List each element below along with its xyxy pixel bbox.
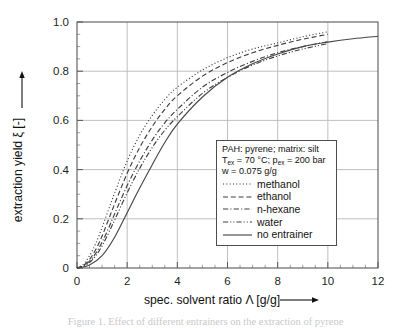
chart-canvas: 024681012 00.20.40.60.81.0 spec. solvent… <box>0 0 411 328</box>
x-tick-label: 2 <box>124 275 130 287</box>
legend-pressure-value: = 200 bar <box>284 155 325 165</box>
x-axis-arrow-head <box>312 297 319 302</box>
x-tick-label: 0 <box>74 275 80 287</box>
legend-line-sample <box>222 179 253 189</box>
legend-temp-symbol: T <box>222 155 228 165</box>
x-tick-label: 12 <box>372 275 385 287</box>
legend-item-methanol[interactable]: methanol <box>222 178 332 191</box>
legend-item-no-entrainer[interactable]: no entrainer <box>222 228 332 241</box>
y-tick-labels: 00.20.40.60.81.0 <box>53 16 70 274</box>
x-tick-label: 4 <box>174 275 181 287</box>
legend-label: ethanol <box>253 191 291 202</box>
legend-entries: methanolethanoln-hexanewaterno entrainer <box>222 178 332 241</box>
y-tick-label: 0.6 <box>53 114 69 126</box>
x-axis-title-group: spec. solvent ratio Λ [g/g] <box>144 293 319 307</box>
legend-header-line-2: Tex = 70 °C; pex = 200 bar <box>222 155 332 166</box>
y-tick-label: 1.0 <box>53 16 69 28</box>
y-axis-title: extraction yield ξ [-] <box>11 118 25 222</box>
legend-box: PAH: pyrene; matrix: silt Tex = 70 °C; p… <box>216 140 337 246</box>
legend-line-sample <box>222 192 253 202</box>
y-tick-label: 0.4 <box>53 164 70 176</box>
legend-item-water[interactable]: water <box>222 216 332 229</box>
y-axis-arrow-head <box>19 71 24 78</box>
legend-header-line-3: w = 0.075 g/g <box>222 166 332 177</box>
x-tick-label: 10 <box>321 275 334 287</box>
legend-item-ethanol[interactable]: ethanol <box>222 191 332 204</box>
legend-label: no entrainer <box>253 229 312 240</box>
y-tick-label: 0 <box>63 262 69 274</box>
legend-label: water <box>253 217 282 228</box>
x-axis-title: spec. solvent ratio Λ [g/g] <box>144 293 280 307</box>
legend-label: n-hexane <box>253 204 300 215</box>
figure-container: 024681012 00.20.40.60.81.0 spec. solvent… <box>0 0 411 328</box>
legend-temp-subscript: ex <box>228 159 235 166</box>
y-axis-title-group: extraction yield ξ [-] <box>11 71 25 222</box>
figure-caption: Figure 1. Effect of different entrainers… <box>0 316 411 328</box>
legend-line-sample <box>222 204 253 214</box>
x-tick-label: 6 <box>224 275 230 287</box>
legend-pressure-subscript: ex <box>278 159 285 166</box>
legend-temp-value: = 70 °C; p <box>234 155 277 165</box>
legend-item-n-hexane[interactable]: n-hexane <box>222 203 332 216</box>
legend-line-sample <box>222 217 253 227</box>
y-tick-label: 0.8 <box>53 65 69 77</box>
x-tick-label: 8 <box>274 275 280 287</box>
legend-header-line-1: PAH: pyrene; matrix: silt <box>222 144 332 155</box>
x-tick-labels: 024681012 <box>74 275 385 287</box>
legend-label: methanol <box>253 179 300 190</box>
y-tick-label: 0.2 <box>53 213 69 225</box>
legend-line-sample <box>222 230 253 240</box>
